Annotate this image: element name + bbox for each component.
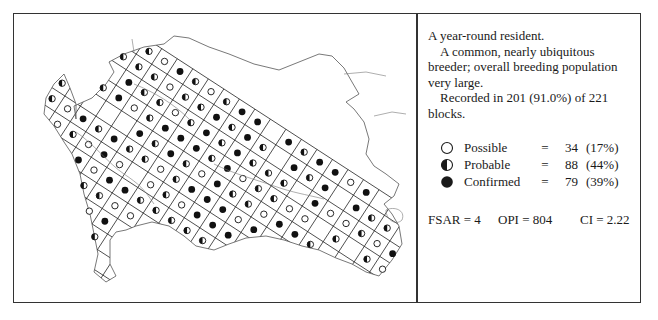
block-confirmed-icon: [194, 212, 201, 219]
block-possible-icon: [54, 121, 60, 127]
block-probable-icon: [153, 207, 159, 213]
block-probable-icon: [192, 78, 198, 84]
legend-count: 88: [556, 157, 578, 173]
filled-circle-icon: [440, 175, 454, 189]
block-probable-icon: [198, 104, 204, 110]
figure-frame: A year-round resident. A common, nearly …: [13, 13, 641, 303]
block-confirmed-icon: [234, 150, 241, 157]
legend-equals: =: [534, 174, 556, 190]
block-possible-icon: [302, 216, 308, 222]
block-confirmed-icon: [285, 139, 292, 146]
block-confirmed-icon: [389, 250, 396, 257]
block-possible-icon: [327, 210, 333, 216]
atlas-map: [14, 14, 416, 302]
legend-label: Confirmed: [464, 174, 534, 190]
block-probable-icon: [358, 230, 364, 236]
block-probable-icon: [92, 234, 98, 240]
ci-value: CI = 2.22: [580, 212, 630, 228]
breeding-text: A common, nearly ubiquitous breeder; ove…: [428, 44, 632, 91]
legend-equals: =: [534, 140, 556, 156]
legend-row-possible: Possible = 34 (17%): [440, 139, 632, 156]
block-probable-icon: [146, 48, 152, 54]
open-circle-icon: [440, 141, 454, 155]
legend-count: 34: [556, 140, 578, 156]
block-confirmed-icon: [312, 200, 319, 207]
block-possible-icon: [347, 179, 353, 185]
block-probable-icon: [307, 241, 313, 247]
block-confirmed-icon: [136, 130, 143, 137]
block-confirmed-icon: [244, 134, 251, 141]
block-probable-icon: [281, 180, 287, 186]
block-confirmed-icon: [101, 218, 108, 225]
legend-equals: =: [534, 157, 556, 173]
block-confirmed-icon: [353, 205, 360, 212]
block-confirmed-icon: [214, 181, 221, 188]
block-confirmed-icon: [219, 206, 226, 213]
recorded-text: Recorded in 201 (91.0%) of 221 blocks.: [428, 90, 632, 121]
block-probable-icon: [223, 99, 229, 105]
block-probable-icon: [163, 192, 169, 198]
status-text: A year-round resident.: [428, 28, 632, 44]
block-possible-icon: [157, 166, 163, 172]
block-confirmed-icon: [239, 108, 246, 115]
block-probable-icon: [333, 236, 339, 242]
block-probable-icon: [199, 237, 205, 243]
block-probable-icon: [188, 120, 194, 126]
block-confirmed-icon: [225, 232, 232, 239]
block-possible-icon: [64, 106, 70, 112]
block-confirmed-icon: [177, 68, 184, 75]
block-probable-icon: [96, 192, 102, 198]
legend-label: Possible: [464, 140, 534, 156]
legend-label: Probable: [464, 157, 534, 173]
block-confirmed-icon: [209, 222, 216, 229]
block-probable-icon: [141, 89, 147, 95]
county-outline: [44, 36, 402, 282]
block-possible-icon: [343, 220, 349, 226]
block-possible-icon: [286, 206, 292, 212]
block-probable-icon: [255, 185, 261, 191]
block-probable-icon: [364, 256, 370, 262]
legend-count: 79: [556, 174, 578, 190]
block-possible-icon: [86, 208, 92, 214]
block-confirmed-icon: [322, 184, 329, 191]
block-possible-icon: [178, 202, 184, 208]
map-panel: [14, 14, 416, 302]
opi-value: OPI = 804: [498, 212, 580, 228]
block-probable-icon: [137, 197, 143, 203]
block-confirmed-icon: [204, 196, 211, 203]
block-probable-icon: [230, 191, 236, 197]
block-probable-icon: [245, 201, 251, 207]
block-confirmed-icon: [106, 177, 113, 184]
block-probable-icon: [126, 146, 132, 152]
block-confirmed-icon: [80, 115, 87, 122]
block-probable-icon: [81, 182, 87, 188]
block-possible-icon: [379, 266, 385, 272]
stats-row: FSAR = 4 OPI = 804 CI = 2.22: [428, 212, 632, 228]
block-possible-icon: [91, 167, 97, 173]
block-probable-icon: [306, 175, 312, 181]
block-probable-icon: [209, 155, 215, 161]
block-probable-icon: [151, 74, 157, 80]
block-confirmed-icon: [291, 164, 298, 171]
block-probable-icon: [173, 176, 179, 182]
block-possible-icon: [131, 105, 137, 111]
block-possible-icon: [161, 58, 167, 64]
block-probable-icon: [368, 215, 374, 221]
legend-row-probable: Probable = 88 (44%): [440, 156, 632, 173]
half-circle-icon: [440, 158, 454, 172]
block-probable-icon: [219, 140, 225, 146]
block-confirmed-icon: [254, 119, 261, 126]
block-probable-icon: [250, 160, 256, 166]
block-probable-icon: [70, 131, 76, 137]
block-possible-icon: [374, 240, 380, 246]
block-possible-icon: [235, 216, 241, 222]
block-probable-icon: [157, 99, 163, 105]
block-probable-icon: [229, 124, 235, 130]
block-probable-icon: [147, 115, 153, 121]
block-probable-icon: [152, 140, 158, 146]
legend-percent: (17%): [586, 140, 619, 156]
block-confirmed-icon: [111, 136, 118, 143]
block-possible-icon: [116, 161, 122, 167]
block-probable-icon: [100, 85, 106, 91]
block-possible-icon: [199, 171, 205, 177]
